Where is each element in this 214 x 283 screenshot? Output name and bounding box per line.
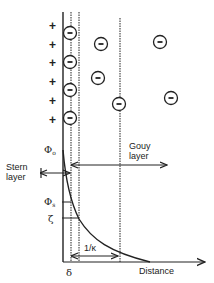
free-anion (92, 72, 105, 85)
delta-label: δ (66, 267, 72, 278)
adsorbed-anion (64, 56, 77, 69)
stern-layer-label-1: Stern (6, 162, 28, 172)
surface-plus-charge: + (49, 19, 56, 33)
surface-plus-charge: + (49, 38, 56, 52)
free-anion (95, 38, 108, 51)
adsorbed-anions (64, 27, 77, 125)
adsorbed-anion (64, 84, 77, 97)
distance-label: Distance (139, 266, 174, 276)
surface-plus-charge: + (49, 56, 56, 70)
surface-plus-charge: + (49, 75, 56, 89)
potential-curve (63, 150, 150, 262)
free-anions (92, 36, 178, 111)
double-layer-diagram: ++++++ Φo Φs ζ Stern layer Gouy layer 1/… (0, 0, 214, 283)
debye-length-label: 1/κ (84, 243, 97, 253)
gouy-layer-label-2: layer (129, 151, 149, 161)
surface-charges: ++++++ (49, 19, 56, 127)
free-anion (154, 36, 167, 49)
stern-layer-label-2: layer (6, 172, 26, 182)
phi-s-label: Φs (44, 196, 55, 208)
free-anion (165, 92, 178, 105)
free-anion (113, 98, 126, 111)
adsorbed-anion (64, 27, 77, 40)
gouy-layer-label-1: Gouy (129, 141, 151, 151)
adsorbed-anion (64, 112, 77, 125)
phi-0-label: Φo (44, 144, 56, 156)
zeta-label: ζ (48, 213, 54, 224)
surface-plus-charge: + (49, 94, 56, 108)
surface-plus-charge: + (49, 113, 56, 127)
